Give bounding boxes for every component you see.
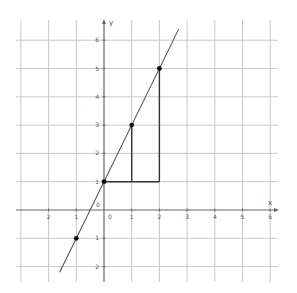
y-tick-label: 2 xyxy=(95,149,99,156)
y-tick-label: 5 xyxy=(95,65,99,72)
x-tick-label: 5 xyxy=(241,213,245,220)
data-point xyxy=(157,66,162,71)
y-axis-arrow-icon xyxy=(102,19,106,24)
x-tick-label: 4 xyxy=(213,213,217,220)
y-tick-label: 1 xyxy=(95,234,99,241)
line-series xyxy=(60,29,179,272)
line-y-equals-2x-plus-1 xyxy=(60,29,179,272)
x-tick-label: 1 xyxy=(130,213,134,220)
y-tick-label: 1 xyxy=(95,178,99,185)
x-tick-label: 2 xyxy=(47,213,51,220)
x-tick-label: 1 xyxy=(74,213,78,220)
x-tick-label: 6 xyxy=(268,213,272,220)
y-tick-label: 6 xyxy=(95,36,99,43)
y-tick-label: 3 xyxy=(95,121,99,128)
x-tick-label: 3 xyxy=(185,213,189,220)
origin-label: 0 xyxy=(96,201,100,208)
y-axis-label: y xyxy=(109,19,113,27)
x-axis-label: x xyxy=(268,199,272,207)
grid-lines xyxy=(16,20,278,282)
data-point xyxy=(74,236,79,241)
y-tick-label: 2 xyxy=(95,263,99,270)
data-point xyxy=(129,123,134,128)
data-point xyxy=(102,179,107,184)
coordinate-plane: 210123456654321120 x y xyxy=(0,0,297,293)
axes xyxy=(16,19,279,282)
y-tick-label: 4 xyxy=(95,93,99,100)
x-tick-label: 2 xyxy=(157,213,161,220)
x-axis-arrow-icon xyxy=(274,208,279,212)
x-tick-label: 0 xyxy=(108,213,112,220)
